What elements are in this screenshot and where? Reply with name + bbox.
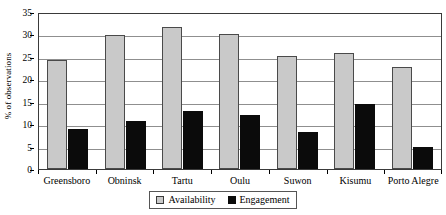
legend-label: Engagement: [240, 193, 290, 206]
y-tick-mark: [30, 170, 34, 171]
plot-area: [38, 13, 442, 170]
y-axis-tick-labels: 05101520253035: [16, 8, 34, 172]
x-tick-label-porto-alegre: Porto Alegre: [384, 174, 442, 190]
bar-group: [269, 14, 326, 169]
bar-availability-suwon: [277, 56, 297, 169]
bar-engagement-porto-alegre: [413, 147, 433, 169]
bar-availability-obninsk: [105, 35, 125, 169]
bar-group: [384, 14, 441, 169]
bar-engagement-tartu: [183, 111, 203, 169]
legend-entry-engagement: Engagement: [228, 193, 290, 206]
y-tick-mark: [30, 58, 34, 59]
legend-entry-availability: Availability: [156, 193, 215, 206]
x-tick-label-tartu: Tartu: [153, 174, 211, 190]
y-axis-title-label: % of observations: [3, 53, 13, 120]
bar-availability-kisumu: [334, 53, 354, 169]
bar-availability-oulu: [219, 34, 239, 169]
bar-engagement-suwon: [298, 132, 318, 169]
bar-availability-greensboro: [47, 60, 67, 169]
bar-group: [211, 14, 268, 169]
x-axis-tick-labels: GreensboroObninskTartuOuluSuwonKisumuPor…: [38, 174, 442, 190]
bar-chart: % of observations 05101520253035 Greensb…: [0, 0, 446, 215]
bar-engagement-oulu: [240, 115, 260, 169]
y-tick-mark: [30, 80, 34, 81]
x-tick-label-obninsk: Obninsk: [96, 174, 154, 190]
bar-engagement-obninsk: [126, 121, 146, 169]
y-tick-mark: [30, 13, 34, 14]
bar-group: [96, 14, 153, 169]
x-tick-label-greensboro: Greensboro: [38, 174, 96, 190]
legend-label: Availability: [168, 193, 215, 206]
y-tick-mark: [30, 148, 34, 149]
x-tick-label-suwon: Suwon: [269, 174, 327, 190]
legend: AvailabilityEngagement: [0, 191, 446, 209]
bar-engagement-greensboro: [68, 129, 88, 169]
legend-box: AvailabilityEngagement: [149, 191, 296, 209]
bar-group: [154, 14, 211, 169]
y-tick-mark: [30, 125, 34, 126]
y-axis-title: % of observations: [0, 0, 16, 172]
legend-swatch-availability: [156, 196, 164, 204]
bar-engagement-kisumu: [355, 104, 375, 169]
bars-layer: [39, 14, 441, 169]
x-tick-label-oulu: Oulu: [211, 174, 269, 190]
x-tick-label-kisumu: Kisumu: [327, 174, 385, 190]
bar-availability-porto-alegre: [392, 67, 412, 169]
y-tick-mark: [30, 103, 34, 104]
y-tick-mark: [30, 35, 34, 36]
bar-group: [39, 14, 96, 169]
legend-swatch-engagement: [228, 196, 236, 204]
bar-availability-tartu: [162, 27, 182, 169]
bar-group: [326, 14, 383, 169]
